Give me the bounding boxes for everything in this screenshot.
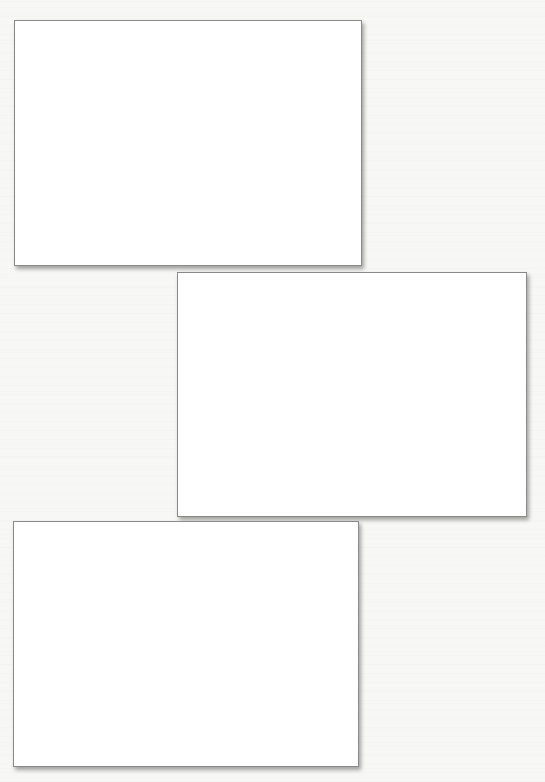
empty-frame-2: [177, 272, 527, 517]
frame-1-label: [15, 21, 16, 22]
frame-3-label: [14, 522, 15, 523]
empty-frame-3: [13, 521, 359, 767]
frame-2-label: [178, 273, 179, 274]
empty-frame-1: [14, 20, 362, 266]
